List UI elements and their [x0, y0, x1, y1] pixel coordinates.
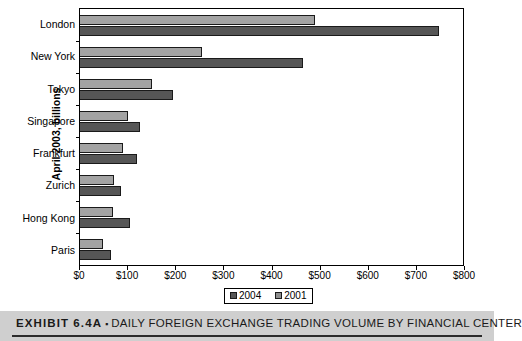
chart-legend: 2004 2001	[224, 288, 313, 304]
x-axis-tick-label: $800	[453, 270, 475, 281]
y-axis-tick	[76, 137, 80, 138]
bar-group	[80, 233, 463, 265]
exhibit-caption-band: EXHIBIT 6.4A▪DAILY FOREIGN EXCHANGE TRAD…	[0, 311, 494, 341]
bar-2001	[80, 239, 103, 249]
y-axis-tick	[76, 41, 80, 42]
bar-2001	[80, 175, 114, 185]
x-axis-tick-label: $600	[357, 270, 379, 281]
bar-group	[80, 105, 463, 137]
category-label: Frankfurt	[6, 137, 78, 169]
legend-label-2004: 2004	[239, 290, 261, 301]
x-axis-tick-label: $200	[164, 270, 186, 281]
x-axis-tick-label: $400	[260, 270, 282, 281]
bar-group	[80, 137, 463, 169]
x-axis-tick-labels: $0$100$200$300$400$500$600$700$800	[0, 270, 494, 284]
bar-group	[80, 41, 463, 73]
exhibit-caption-text: EXHIBIT 6.4A▪DAILY FOREIGN EXCHANGE TRAD…	[16, 317, 522, 329]
bar-2001	[80, 79, 152, 89]
category-label: Tokyo	[6, 73, 78, 105]
x-axis-tick-label: $700	[405, 270, 427, 281]
bar-2004	[80, 58, 303, 68]
bar-2004	[80, 250, 111, 260]
x-axis-tick-label: $500	[309, 270, 331, 281]
chart-figure: April 2003, billions LondonNew YorkTokyo…	[0, 0, 494, 309]
y-axis-tick	[76, 73, 80, 74]
legend-item-2001: 2001	[275, 290, 306, 301]
bar-2004	[80, 90, 173, 100]
y-axis-tick	[76, 105, 80, 106]
plot-area	[79, 8, 464, 266]
caption-separator-icon: ▪	[102, 319, 111, 329]
bar-2004	[80, 218, 130, 228]
y-axis-tick	[76, 233, 80, 234]
x-axis-tick-label: $100	[116, 270, 138, 281]
bars-container	[80, 9, 463, 265]
bar-2004	[80, 186, 121, 196]
category-label: London	[6, 8, 78, 40]
category-axis-labels: LondonNew YorkTokyoSingaporeFrankfurtZur…	[6, 8, 78, 266]
legend-item-2004: 2004	[230, 290, 261, 301]
category-label: Hong Kong	[6, 202, 78, 234]
legend-label-2001: 2001	[284, 290, 306, 301]
bar-group	[80, 169, 463, 201]
bar-2001	[80, 207, 113, 217]
x-axis-tick-label: $300	[212, 270, 234, 281]
bar-2001	[80, 143, 123, 153]
exhibit-title: DAILY FOREIGN EXCHANGE TRADING VOLUME BY…	[111, 317, 522, 329]
y-axis-tick	[76, 169, 80, 170]
bar-2001	[80, 15, 315, 25]
bar-2004	[80, 122, 140, 132]
caption-divider	[12, 335, 482, 337]
category-label: New York	[6, 40, 78, 72]
bar-2004	[80, 154, 137, 164]
bar-group	[80, 73, 463, 105]
bar-2001	[80, 47, 202, 57]
bar-group	[80, 201, 463, 233]
y-axis-tick	[76, 201, 80, 202]
bar-group	[80, 9, 463, 41]
category-label: Singapore	[6, 105, 78, 137]
exhibit-number: EXHIBIT 6.4A	[16, 317, 102, 329]
category-label: Paris	[6, 234, 78, 266]
x-axis-tick-label: $0	[73, 270, 84, 281]
bar-2001	[80, 111, 128, 121]
dark-gray-square-icon	[230, 292, 237, 299]
category-label: Zurich	[6, 169, 78, 201]
bar-2004	[80, 26, 439, 36]
light-gray-square-icon	[275, 292, 282, 299]
